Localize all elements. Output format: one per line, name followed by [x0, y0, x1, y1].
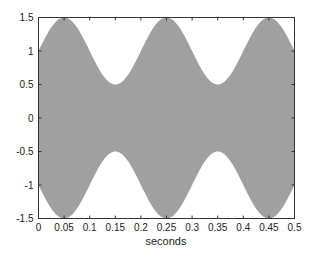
y-tick-label: 1.5 — [20, 12, 34, 23]
x-axis-label: seconds — [146, 235, 187, 247]
x-tick-label: 0.3 — [185, 222, 199, 233]
x-tick-label: 0.35 — [208, 222, 228, 233]
y-tick-label: -1.5 — [16, 213, 34, 224]
x-tick-label: 0.15 — [106, 222, 126, 233]
x-tick-label: 0.1 — [83, 222, 97, 233]
x-tick-label: 0.4 — [236, 222, 250, 233]
y-tick-label: -1 — [25, 180, 34, 191]
y-tick-label: 0 — [28, 113, 34, 124]
x-tick-label: 0.25 — [157, 222, 177, 233]
x-tick-label: 0 — [36, 222, 42, 233]
x-tick-label: 0.45 — [259, 222, 279, 233]
chart: 00.050.10.150.20.250.30.350.40.450.5 -1.… — [0, 0, 314, 257]
x-tick-label: 0.05 — [54, 222, 74, 233]
x-tick-label: 0.2 — [134, 222, 148, 233]
y-tick-label: 0.5 — [20, 79, 34, 90]
x-tick-label: 0.5 — [288, 222, 302, 233]
envelope-fill-area — [39, 18, 295, 219]
y-tick-label: 1 — [28, 46, 34, 57]
y-tick-label: -0.5 — [16, 146, 34, 157]
